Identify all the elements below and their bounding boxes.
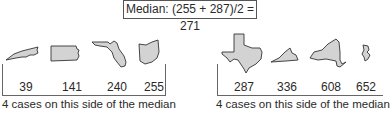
left-group-caption: 4 cases on this side of the median [2, 98, 176, 110]
value-pennsylvania: 141 [52, 80, 92, 94]
value-new-york: 608 [311, 80, 351, 94]
virginia-shape [271, 48, 298, 62]
value-ohio: 255 [134, 80, 174, 94]
value-texas: 287 [224, 80, 264, 94]
ohio-shape [139, 40, 159, 64]
value-florida: 240 [97, 80, 137, 94]
value-virginia: 336 [267, 80, 307, 94]
new-york-shape [310, 39, 346, 67]
value-north-carolina: 39 [6, 80, 46, 94]
pennsylvania-shape [51, 46, 79, 61]
right-group-caption: 4 cases on this side of the median [216, 98, 390, 110]
value-new-jersey: 652 [346, 80, 386, 94]
new-jersey-shape [362, 45, 370, 61]
north-carolina-shape [6, 47, 38, 60]
